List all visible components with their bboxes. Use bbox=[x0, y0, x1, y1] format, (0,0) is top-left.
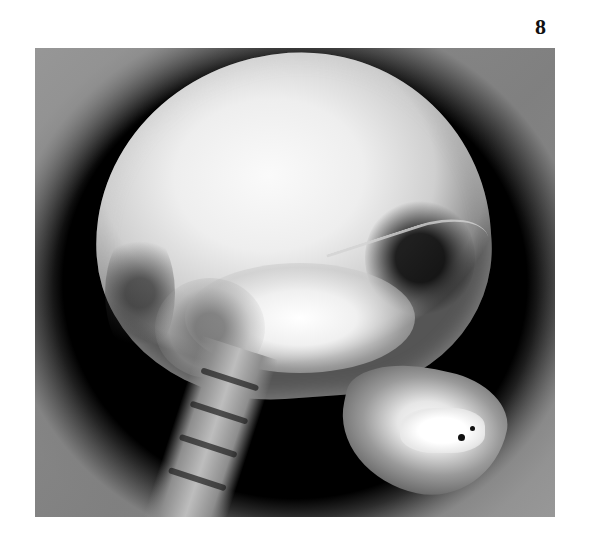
tooth-gap bbox=[458, 434, 465, 441]
vertebra-gap bbox=[200, 367, 259, 391]
tooth-gap bbox=[470, 426, 475, 431]
vertebra-gap bbox=[190, 401, 249, 425]
xray-image bbox=[35, 48, 555, 517]
teeth bbox=[400, 408, 485, 453]
figure-number: 8 bbox=[535, 14, 546, 40]
vertebra-gap bbox=[179, 434, 238, 458]
vertebra-gap bbox=[168, 467, 227, 491]
